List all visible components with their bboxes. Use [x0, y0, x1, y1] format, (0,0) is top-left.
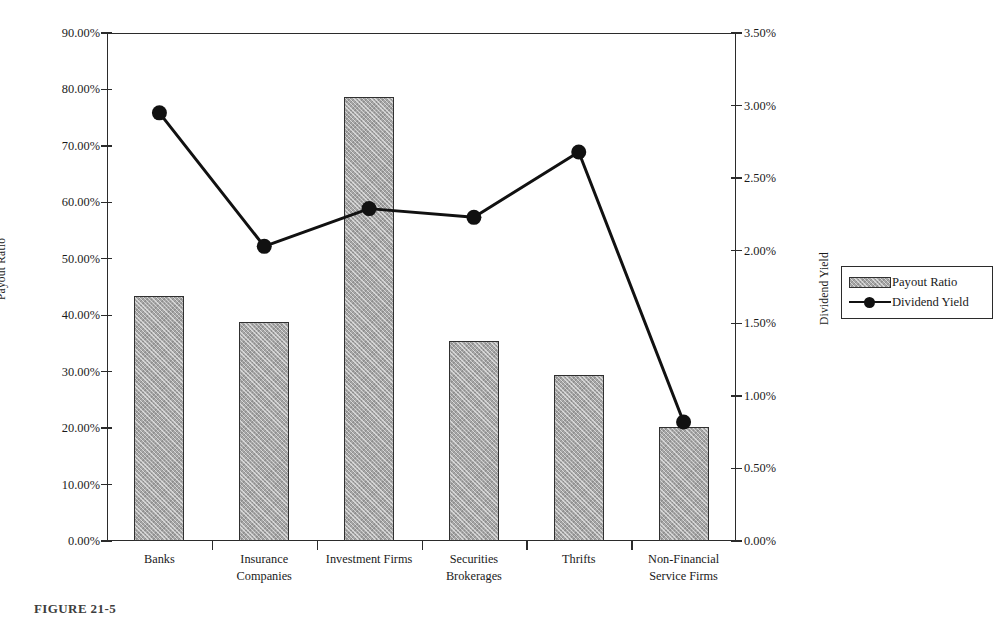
legend-label-dividend-yield: Dividend Yield	[892, 296, 969, 309]
x-axis-tick-mark	[631, 541, 632, 550]
y-axis-right-tick-mark	[731, 540, 742, 541]
y-axis-left-tick-mark	[101, 258, 112, 259]
y-axis-right-tick-label: 0.50%	[744, 462, 776, 474]
y-axis-right-tick-mark	[731, 177, 742, 178]
y-axis-right-tick-label: 2.50%	[744, 172, 776, 184]
y-axis-left-tick-mark	[101, 540, 112, 541]
y-axis-left-tick-label: 80.00%	[62, 83, 100, 95]
y-axis-right-tick-mark	[731, 250, 742, 251]
line-marker-investment-firms	[362, 201, 377, 216]
line-marker-thrifts	[571, 145, 586, 160]
y-axis-left-tick-label: 70.00%	[62, 140, 100, 152]
y-axis-right-tick-mark	[731, 105, 742, 106]
legend-swatch-bar-icon	[849, 277, 891, 288]
y-axis-left-tick-label: 0.00%	[68, 535, 100, 547]
x-axis-tick-mark	[422, 541, 423, 550]
y-axis-right-ticks: 0.00%0.50%1.00%1.50%2.00%2.50%3.00%3.50%	[744, 0, 824, 617]
x-axis-label-securities-brokerages: Securities Brokerages	[422, 551, 527, 584]
y-axis-left-tick-label: 30.00%	[62, 365, 100, 377]
y-axis-left-tick-mark	[101, 145, 112, 146]
y-axis-left-tick-mark	[101, 89, 112, 90]
line-marker-insurance-companies	[257, 239, 272, 254]
y-axis-left-tick-mark	[101, 484, 112, 485]
y-axis-right-tick-mark	[731, 468, 742, 469]
x-axis-label-investment-firms: Investment Firms	[317, 551, 422, 568]
figure-caption: FIGURE 21-5	[34, 601, 116, 617]
y-axis-right-title: Dividend Yield	[818, 252, 830, 325]
y-axis-left-tick-label: 90.00%	[62, 27, 100, 39]
x-axis-tick-mark	[526, 541, 527, 550]
dividend-yield-line	[159, 113, 683, 422]
legend-item-payout-ratio[interactable]: Payout Ratio	[849, 272, 985, 292]
legend-item-dividend-yield[interactable]: Dividend Yield	[849, 292, 985, 312]
figure-container: 0.00%10.00%20.00%30.00%40.00%50.00%60.00…	[0, 0, 1005, 617]
y-axis-left-tick-label: 60.00%	[62, 196, 100, 208]
line-series-layer	[107, 33, 736, 541]
legend-swatch-line-icon	[849, 295, 891, 309]
y-axis-left-tick-mark	[101, 32, 112, 33]
y-axis-right-tick-label: 0.00%	[744, 535, 776, 547]
line-marker-non-financial-service-firms	[676, 414, 691, 429]
y-axis-left-tick-mark	[101, 315, 112, 316]
y-axis-right-tick-label: 2.00%	[744, 245, 776, 257]
y-axis-left-tick-label: 10.00%	[62, 478, 100, 490]
line-marker-securities-brokerages	[466, 210, 481, 225]
y-axis-left-tick-label: 40.00%	[62, 309, 100, 321]
y-axis-right-tick-label: 3.00%	[744, 99, 776, 111]
y-axis-right-tick-label: 3.50%	[744, 27, 776, 39]
y-axis-left-ticks: 0.00%10.00%20.00%30.00%40.00%50.00%60.00…	[28, 0, 100, 617]
x-axis-tick-mark	[317, 541, 318, 550]
y-axis-left-tick-label: 50.00%	[62, 253, 100, 265]
x-axis-tick-mark	[212, 541, 213, 550]
y-axis-right-tick-label: 1.50%	[744, 317, 776, 329]
y-axis-left-tick-mark	[101, 427, 112, 428]
y-axis-left-tick-mark	[101, 371, 112, 372]
y-axis-right-tick-label: 1.00%	[744, 390, 776, 402]
y-axis-right-tick-mark	[731, 323, 742, 324]
legend-label-payout-ratio: Payout Ratio	[892, 276, 957, 289]
y-axis-left-title: Payout Ratio	[0, 238, 7, 300]
y-axis-left-tick-mark	[101, 202, 112, 203]
x-axis-label-banks: Banks	[107, 551, 212, 568]
x-axis-label-insurance-companies: InsuranceCompanies	[212, 551, 317, 584]
line-marker-banks	[152, 105, 167, 120]
x-axis-category-labels: BanksInsuranceCompaniesInvestment FirmsS…	[107, 551, 736, 597]
chart-legend: Payout Ratio Dividend Yield	[841, 266, 993, 319]
y-axis-right-tick-mark	[731, 32, 742, 33]
y-axis-left-tick-label: 20.00%	[62, 422, 100, 434]
x-axis-label-thrifts: Thrifts	[526, 551, 631, 568]
x-axis-label-non-financial-service-firms: Non-FinancialService Firms	[631, 551, 736, 584]
y-axis-right-tick-mark	[731, 395, 742, 396]
